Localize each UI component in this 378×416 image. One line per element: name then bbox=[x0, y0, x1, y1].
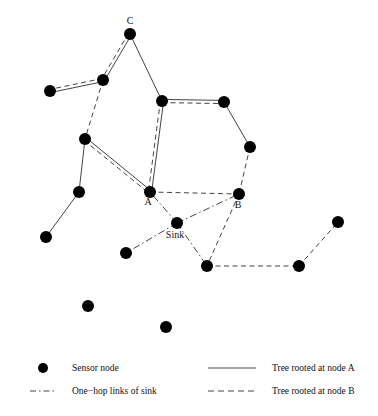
legend: Sensor nodeOne−hop links of sinkTree roo… bbox=[30, 363, 355, 396]
sensor-node bbox=[82, 300, 94, 312]
sensor-node bbox=[44, 85, 56, 97]
topology-canvas: CABSink Sensor nodeOne−hop links of sink… bbox=[0, 0, 378, 416]
tree-a-edge bbox=[50, 82, 103, 93]
sensor-node bbox=[244, 141, 256, 153]
sensor-node bbox=[201, 260, 213, 272]
node-labels: CABSink bbox=[127, 15, 242, 240]
sink-link-edge bbox=[150, 192, 177, 223]
tree-a-edge bbox=[104, 35, 131, 81]
sensor-node bbox=[73, 186, 85, 198]
sensor-node bbox=[332, 216, 344, 228]
sink-link-edge bbox=[177, 194, 239, 223]
tree-b-edge bbox=[85, 80, 103, 139]
sensor-node bbox=[293, 260, 305, 272]
tree-a-edge bbox=[152, 101, 164, 192]
sensor-node bbox=[40, 231, 52, 243]
network-topology-figure: CABSink Sensor nodeOne−hop links of sink… bbox=[0, 0, 378, 416]
tree-a-edge bbox=[86, 138, 151, 191]
tree-a-edge bbox=[130, 34, 162, 101]
sensor-nodes bbox=[40, 28, 344, 333]
tree-a-edge bbox=[224, 102, 250, 147]
tree-a-edge bbox=[79, 139, 85, 192]
sensor-node bbox=[97, 74, 109, 86]
sensor-node bbox=[120, 247, 132, 259]
legend-label-one_hop: One−hop links of sink bbox=[72, 386, 157, 396]
legend-label-sensor_node: Sensor node bbox=[72, 363, 119, 373]
legend-sensor-node-icon bbox=[38, 363, 48, 373]
tree-b-edge bbox=[102, 33, 129, 79]
tree-b-edge bbox=[162, 103, 224, 104]
tree-a-edge bbox=[46, 192, 79, 237]
sensor-node bbox=[160, 321, 172, 333]
tree-b-edge bbox=[299, 222, 338, 266]
legend-label-tree_b: Tree rooted at node B bbox=[272, 386, 355, 396]
sensor-node bbox=[124, 28, 136, 40]
sensor-node bbox=[79, 133, 91, 145]
node-label-b: B bbox=[235, 199, 242, 210]
node-label-c: C bbox=[127, 15, 134, 26]
tree-b-edges bbox=[50, 33, 338, 266]
sensor-node bbox=[218, 96, 230, 108]
sensor-node bbox=[171, 217, 183, 229]
sensor-node bbox=[156, 95, 168, 107]
tree-a-edge bbox=[162, 99, 224, 100]
node-label-sk: Sink bbox=[166, 229, 184, 240]
node-label-a: A bbox=[144, 196, 152, 207]
tree-b-edge bbox=[84, 140, 149, 193]
tree-b-edge bbox=[239, 147, 250, 194]
tree-b-edge bbox=[150, 192, 239, 194]
legend-label-tree_a: Tree rooted at node A bbox=[272, 363, 355, 373]
tree-b-edge bbox=[148, 101, 160, 192]
tree-b-edge bbox=[50, 78, 103, 89]
